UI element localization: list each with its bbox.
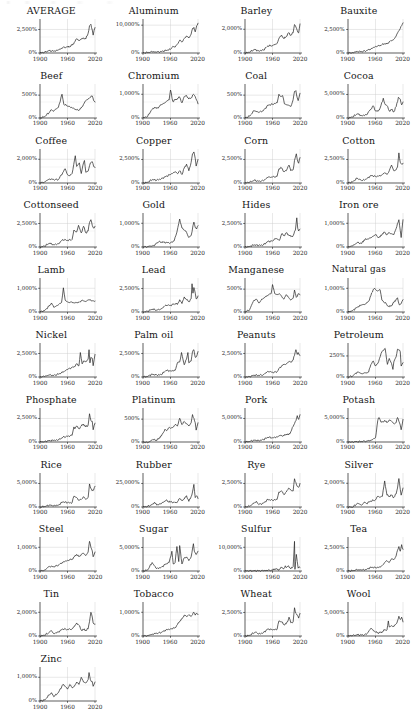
y-tick-label: 1,000% [103, 91, 140, 97]
x-tick-label: 2020 [395, 185, 411, 191]
x-tick-label: 2020 [190, 444, 206, 450]
x-tick-label: 2020 [395, 315, 411, 321]
x-tick-label: 1960 [265, 380, 281, 386]
x-tick-label: 2020 [292, 380, 308, 386]
x-tick-label: 2020 [292, 56, 308, 62]
x-tick-label: 1960 [162, 120, 178, 126]
x-tick-label: 1960 [162, 56, 178, 62]
x-tick-label: 2020 [87, 56, 103, 62]
x-tick-label: 1960 [60, 639, 76, 645]
x-tick-label: 1900 [135, 444, 151, 450]
x-tick-label: 1960 [162, 574, 178, 580]
y-tick-label: 5,000% [103, 545, 140, 551]
chart-panel-cotton: Cotton0%2,500%190019602020 [308, 134, 411, 199]
chart-panel-potash: Potash0%5,000%190019602020 [308, 393, 411, 458]
panel-title: Steel [0, 523, 103, 534]
x-tick-label: 2020 [292, 444, 308, 450]
x-tick-label: 1900 [340, 185, 356, 191]
x-tick-label: 1900 [340, 444, 356, 450]
y-tick-label: 5,000% [308, 91, 345, 97]
panel-title: Cocoa [308, 70, 411, 81]
x-tick-label: 1900 [340, 56, 356, 62]
x-tick-label: 1960 [60, 380, 76, 386]
panel-title: Wheat [205, 588, 308, 599]
x-tick-label: 1900 [32, 250, 48, 256]
chart-panel-zinc: Zinc0%1,000%190019602020 [0, 652, 103, 713]
panel-title: Potash [308, 394, 411, 405]
panel-title: Sulfur [205, 523, 308, 534]
y-tick-label: 500% [205, 92, 242, 98]
y-tick-label: 1,000% [0, 545, 37, 551]
chart-panel-average: AVERAGE0%2,500%190019602020 [0, 4, 103, 69]
x-tick-label: 1900 [135, 574, 151, 580]
x-tick-label: 2020 [292, 250, 308, 256]
y-tick-label: 2,000% [0, 156, 37, 162]
y-tick-label: 10,000% [205, 545, 242, 551]
panel-title: Coffee [0, 135, 103, 146]
x-tick-label: 2020 [190, 380, 206, 386]
x-tick-label: 2020 [292, 120, 308, 126]
x-tick-label: 2020 [87, 380, 103, 386]
panel-title: Hides [205, 199, 308, 210]
x-tick-label: 2020 [87, 639, 103, 645]
x-tick-label: 1900 [32, 185, 48, 191]
chart-panel-sugar: Sugar0%5,000%190019602020 [103, 522, 206, 587]
chart-panel-beef: Beef0%500%190019602020 [0, 69, 103, 134]
panel-title: Palm oil [103, 329, 206, 340]
panel-title: Aluminum [103, 5, 206, 16]
x-tick-label: 2020 [87, 315, 103, 321]
y-tick-label: 2,500% [308, 545, 345, 551]
x-tick-label: 1900 [340, 380, 356, 386]
chart-panel-barley: Barley0%2,000%190019602020 [205, 4, 308, 69]
chart-panel-natural-gas: Natural gas0%1,000%190019602020 [308, 263, 411, 328]
chart-panel-corn: Corn0%2,500%190019602020 [205, 134, 308, 199]
panel-title: Cotton [308, 135, 411, 146]
panel-title: Platinum [103, 394, 206, 405]
x-tick-label: 1960 [265, 120, 281, 126]
chart-panel-rye: Rye0%2,500%190019602020 [205, 458, 308, 523]
x-tick-label: 2020 [87, 120, 103, 126]
panel-title: Silver [308, 459, 411, 470]
small-multiples-grid: AVERAGE0%2,500%190019602020Aluminum0%10,… [0, 4, 410, 713]
x-tick-label: 2020 [395, 120, 411, 126]
panel-title: Peanuts [205, 329, 308, 340]
chart-panel-gold: Gold0%1,000%190019602020 [103, 198, 206, 263]
chart-panel-petroleum: Petroleum0%250%190019602020 [308, 328, 411, 393]
chart-panel-cottonseed: Cottonseed0%2,500%190019602020 [0, 198, 103, 263]
x-tick-label: 1960 [367, 120, 383, 126]
y-tick-label: 2,500% [0, 351, 37, 357]
x-tick-label: 1960 [367, 444, 383, 450]
chart-panel-coffee: Coffee0%2,000%190019602020 [0, 134, 103, 199]
x-tick-label: 2020 [292, 509, 308, 515]
x-tick-label: 1960 [367, 315, 383, 321]
panel-title: Barley [205, 5, 308, 16]
y-tick-label: 2,500% [103, 156, 140, 162]
x-tick-label: 1900 [32, 639, 48, 645]
chart-panel-aluminum: Aluminum0%10,000%190019602020 [103, 4, 206, 69]
x-tick-label: 1960 [60, 509, 76, 515]
x-tick-label: 2020 [87, 574, 103, 580]
chart-panel-lamb: Lamb0%1,000%190019602020 [0, 263, 103, 328]
chart-panel-steel: Steel0%1,000%190019602020 [0, 522, 103, 587]
x-tick-label: 1900 [135, 639, 151, 645]
x-tick-label: 1960 [265, 574, 281, 580]
chart-panel-hides: Hides0%2,500%190019602020 [205, 198, 308, 263]
y-tick-label: 1,000% [103, 610, 140, 616]
panel-title: Tobacco [103, 588, 206, 599]
y-tick-label: 2,500% [205, 610, 242, 616]
x-tick-label: 1900 [237, 315, 253, 321]
panel-title: AVERAGE [0, 5, 103, 16]
x-tick-label: 1900 [32, 704, 48, 710]
chart-panel-iron-ore: Iron ore0%1,000%190019602020 [308, 198, 411, 263]
x-tick-label: 1900 [237, 444, 253, 450]
y-tick-label: 2,500% [0, 221, 37, 227]
chart-panel-tin: Tin0%2,000%190019602020 [0, 587, 103, 652]
y-tick-label: 2,500% [0, 415, 37, 421]
x-tick-label: 1960 [367, 56, 383, 62]
chart-panel-rice: Rice0%5,000%190019602020 [0, 458, 103, 523]
x-tick-label: 1900 [340, 315, 356, 321]
x-tick-label: 1900 [340, 574, 356, 580]
y-tick-label: 5,000% [0, 480, 37, 486]
x-tick-label: 1900 [237, 574, 253, 580]
y-tick-label: 2,000% [205, 26, 242, 32]
